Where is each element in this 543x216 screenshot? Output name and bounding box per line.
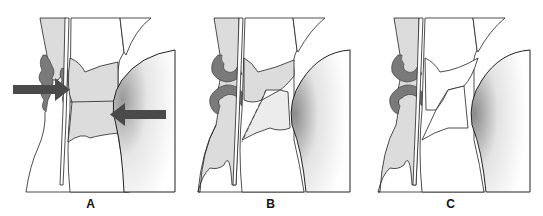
panel-label-c: C <box>360 197 541 211</box>
panel-b-drawing <box>180 0 361 216</box>
panel-a-drawing <box>0 0 181 216</box>
three-panel-diagram: A <box>0 0 543 216</box>
panel-label-a: A <box>0 197 181 211</box>
panel-label-b: B <box>180 197 361 211</box>
panel-b: B <box>180 0 361 216</box>
panel-a: A <box>0 0 181 216</box>
panel-c: C <box>360 0 541 216</box>
panel-c-drawing <box>360 0 543 216</box>
